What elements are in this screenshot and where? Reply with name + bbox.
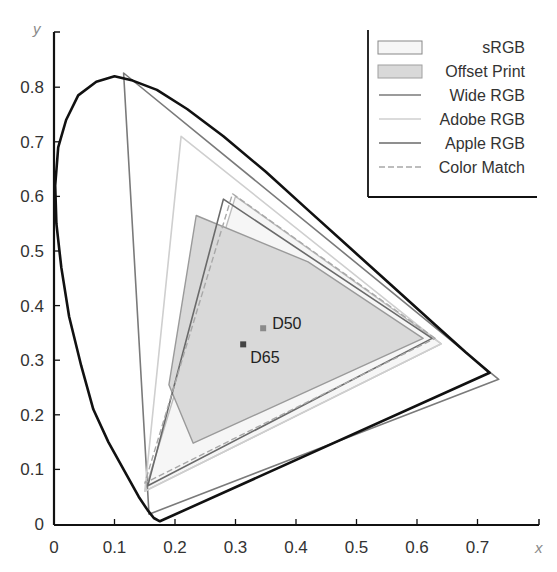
y-tick-label: 0.4 bbox=[20, 297, 44, 316]
legend-swatch bbox=[378, 41, 422, 54]
x-tick-label: 0.1 bbox=[103, 538, 127, 557]
x-tick-label: 0 bbox=[49, 538, 58, 557]
legend-label: sRGB bbox=[482, 39, 525, 56]
legend-label: Offset Print bbox=[445, 63, 525, 80]
gamut-layer bbox=[124, 73, 499, 514]
legend-label: Adobe RGB bbox=[440, 111, 525, 128]
legend-label: Wide RGB bbox=[449, 87, 525, 104]
legend-label: Color Match bbox=[439, 159, 525, 176]
legend-label: Apple RGB bbox=[445, 135, 525, 152]
d65-label: D65 bbox=[250, 349, 279, 366]
y-tick-label: 0.8 bbox=[20, 78, 44, 97]
y-tick-label: 0.2 bbox=[20, 406, 44, 425]
legend-swatch bbox=[378, 65, 422, 78]
x-tick-label: 0.2 bbox=[163, 538, 187, 557]
x-axis-label: x bbox=[534, 539, 543, 556]
legend: sRGBOffset PrintWide RGBAdobe RGBApple R… bbox=[368, 30, 537, 197]
d65-marker bbox=[240, 341, 246, 347]
legend-item-offset-print: Offset Print bbox=[378, 63, 526, 80]
legend-item-srgb: sRGB bbox=[378, 39, 525, 56]
legend-item-adobe-rgb: Adobe RGB bbox=[379, 111, 525, 128]
y-tick-label: 0.1 bbox=[20, 460, 44, 479]
x-tick-label: 0.7 bbox=[466, 538, 490, 557]
cie-chromaticity-chart: D50D65 00.10.20.30.40.50.60.7 00.10.20.3… bbox=[0, 0, 557, 572]
y-tick-label: 0.3 bbox=[20, 351, 44, 370]
y-tick-label: 0.7 bbox=[20, 133, 44, 152]
d50-label: D50 bbox=[272, 315, 301, 332]
legend-item-wide-rgb: Wide RGB bbox=[379, 87, 525, 104]
x-tick-label: 0.6 bbox=[405, 538, 429, 557]
plot-area: D50D65 bbox=[55, 73, 499, 521]
legend-item-apple-rgb: Apple RGB bbox=[379, 135, 525, 152]
legend-items: sRGBOffset PrintWide RGBAdobe RGBApple R… bbox=[378, 39, 526, 176]
y-tick-label: 0 bbox=[35, 515, 44, 534]
y-axis-label: y bbox=[32, 20, 42, 37]
y-tick-label: 0.5 bbox=[20, 242, 44, 261]
x-tick-label: 0.4 bbox=[284, 538, 308, 557]
y-tick-label: 0.6 bbox=[20, 187, 44, 206]
d50-marker bbox=[260, 325, 266, 331]
legend-item-color-match: Color Match bbox=[379, 159, 525, 176]
x-tick-label: 0.5 bbox=[345, 538, 369, 557]
x-tick-label: 0.3 bbox=[224, 538, 248, 557]
